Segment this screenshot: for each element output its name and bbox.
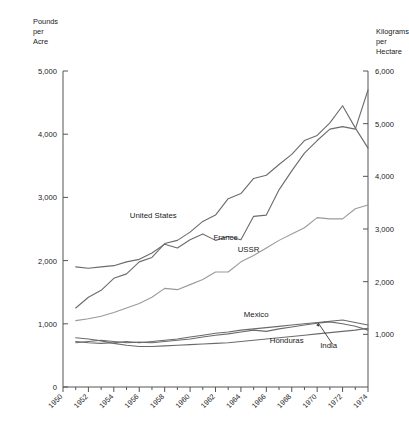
series-label-mexico: Mexico [244, 310, 269, 319]
right-tick-label: 6,000 [375, 67, 394, 76]
x-tick-label: 1960 [173, 392, 191, 410]
x-tick-label: 1962 [199, 392, 217, 410]
x-tick-label: 1952 [72, 392, 90, 410]
right-tick-label: 3,000 [375, 225, 394, 234]
left-tick-label: 3,000 [38, 193, 57, 202]
x-tick-label: 1958 [148, 392, 166, 410]
yield-line-chart: PoundsperAcreKilogramsperHectare01,0002,… [0, 0, 409, 430]
x-tick-label: 1966 [250, 392, 268, 410]
left-tick-label: 0 [53, 383, 57, 392]
x-tick-label: 1964 [224, 392, 242, 410]
chart-container: PoundsperAcreKilogramsperHectare01,0002,… [0, 0, 409, 430]
series-label-france: France [214, 233, 238, 242]
left-axis-title-line: Pounds [33, 17, 58, 26]
right-axis-title-line: Hectare [376, 47, 402, 56]
right-tick-label: 1,000 [375, 330, 394, 339]
right-tick-label: 4,000 [375, 172, 394, 181]
left-tick-label: 4,000 [38, 130, 57, 139]
x-tick-label: 1974 [351, 392, 369, 410]
series-label-india: India [320, 341, 338, 350]
left-tick-label: 1,000 [38, 320, 57, 329]
left-tick-label: 2,000 [38, 257, 57, 266]
left-axis-title-line: per [33, 27, 44, 36]
x-tick-label: 1968 [275, 392, 293, 410]
right-tick-label: 2,000 [375, 278, 394, 287]
x-tick-label: 1954 [97, 392, 115, 410]
series-label-ussr: USSR [238, 245, 260, 254]
x-tick-label: 1970 [301, 392, 319, 410]
x-tick-label: 1956 [123, 392, 141, 410]
left-tick-label: 5,000 [38, 67, 57, 76]
right-axis-title-line: Kilograms [376, 27, 409, 36]
series-line [76, 106, 368, 308]
x-tick-label: 1950 [46, 392, 64, 410]
series-line [76, 205, 368, 321]
x-tick-label: 1972 [326, 392, 344, 410]
right-axis-title-line: per [376, 37, 387, 46]
series-label-united-states: United States [130, 211, 177, 220]
left-axis-title-line: Acre [33, 37, 48, 46]
series-label-honduras: Honduras [270, 336, 304, 345]
right-tick-label: 5,000 [375, 120, 394, 129]
